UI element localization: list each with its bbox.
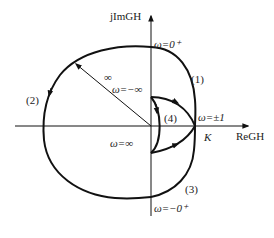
x-axis-label: ReGH [236, 130, 264, 142]
label-omega-0-plus: ω=0⁺ [154, 38, 182, 50]
label-K: K [203, 131, 212, 143]
label-infinity-radius: ∞ [104, 71, 112, 83]
label-segment-3: (3) [185, 183, 198, 196]
nyquist-diagram: jImGH ReGH ω=0⁺ ω=−0⁺ ω=±1 ω=−∞ ω=∞ ∞ K … [0, 0, 274, 238]
label-segment-2: (2) [26, 94, 39, 107]
contour-segment-4-left [151, 97, 160, 153]
label-segment-4: (4) [164, 112, 177, 125]
infinity-radius-arrow [76, 64, 151, 126]
contour-segment-2 [43, 46, 151, 198]
label-omega-pm1: ω=±1 [198, 111, 225, 123]
label-omega-inf: ω=∞ [110, 137, 133, 149]
label-segment-1: (1) [191, 73, 204, 86]
label-omega-neg-0-plus: ω=−0⁺ [154, 202, 189, 214]
label-omega-neg-inf: ω=−∞ [112, 83, 143, 95]
y-axis-label: jImGH [109, 10, 141, 22]
